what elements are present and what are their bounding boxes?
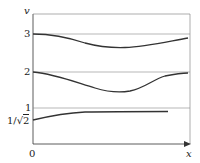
y-tick-inv-sqrt2: 1/√2 [7,116,29,126]
y-tick-3: 3 [24,29,30,39]
origin-label: 0 [29,149,35,159]
y-tick-inv-sqrt2-prefix: 1/ [7,115,17,126]
series-middle-curve [33,72,188,92]
x-axis-label: x [186,149,192,159]
series-lower-curve [33,112,168,121]
y-tick-inv-sqrt2-radicand: 2 [23,114,29,126]
series-upper-curve [33,34,188,48]
y-tick-2: 2 [24,67,30,77]
y-tick-1: 1 [25,103,31,113]
line-chart [0,0,200,163]
y-axis-label: v [24,6,30,16]
